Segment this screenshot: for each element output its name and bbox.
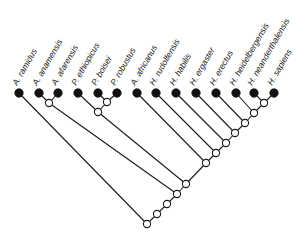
internal-node <box>212 149 219 156</box>
branch-line <box>98 112 186 184</box>
internal-node <box>182 180 189 187</box>
leaf-node <box>212 89 220 97</box>
internal-node <box>173 190 180 197</box>
leaf-node <box>74 89 82 97</box>
internal-nodes <box>45 98 267 227</box>
internal-node <box>260 99 267 106</box>
leaf-node <box>270 89 278 97</box>
taxon-labels: A. ramidusA. anamensisA. afarensisP. eth… <box>10 16 295 88</box>
branch-line <box>196 93 235 133</box>
cladogram: A. ramidusA. anamensisA. afarensisP. eth… <box>0 0 307 236</box>
internal-node <box>231 129 238 136</box>
internal-node <box>163 200 170 207</box>
leaf-node <box>250 89 258 97</box>
leaf-node <box>192 89 200 97</box>
leaf-node <box>152 89 160 97</box>
leaf-nodes <box>15 89 278 97</box>
branch-line <box>176 93 226 143</box>
leaf-node <box>15 89 23 97</box>
internal-node <box>45 99 52 106</box>
branch-line <box>186 163 206 184</box>
leaf-node <box>232 89 240 97</box>
internal-node <box>222 139 229 146</box>
internal-node <box>153 210 160 217</box>
branches <box>19 93 274 224</box>
leaf-node <box>35 89 43 97</box>
leaf-node <box>172 89 180 97</box>
internal-node <box>103 98 110 105</box>
internal-node <box>241 119 248 126</box>
branch-line <box>49 103 177 194</box>
internal-node <box>202 159 209 166</box>
leaf-node <box>133 89 141 97</box>
internal-node <box>143 220 150 227</box>
internal-node <box>94 108 101 115</box>
leaf-node <box>54 89 62 97</box>
branch-line <box>156 93 216 153</box>
leaf-node <box>94 89 102 97</box>
leaf-node <box>113 89 121 97</box>
internal-node <box>250 109 257 116</box>
